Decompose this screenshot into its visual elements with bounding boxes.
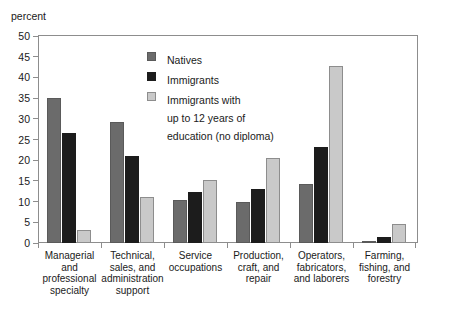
- bar-chart: percent 50454035302520151050 Manageriala…: [0, 0, 456, 310]
- x-axis-category-label: Technical,sales, andadministrationsuppor…: [101, 250, 164, 296]
- y-axis-tick-label: 25: [18, 134, 30, 146]
- category-label-line: Farming,: [353, 250, 416, 262]
- bar-immigrants: [188, 192, 202, 243]
- legend-swatch-lowedu: [147, 92, 156, 101]
- x-axis-category-label: Managerialandprofessionalspecialty: [38, 250, 101, 296]
- y-axis-tick-label: 5: [24, 216, 30, 228]
- x-axis-category-labels: ManagerialandprofessionalspecialtyTechni…: [38, 250, 418, 308]
- category-label-line: occupations: [164, 262, 227, 274]
- legend-swatch-natives: [147, 52, 156, 61]
- category-label-line: fabricators,: [290, 262, 353, 274]
- y-axis-tick: 40: [0, 71, 38, 83]
- y-axis-tick: 30: [0, 113, 38, 125]
- bar-natives: [47, 98, 61, 243]
- x-axis-category-label: Farming,fishing, andforestry: [353, 250, 416, 285]
- legend-item: Immigrants with up to 12 years of educat…: [147, 90, 312, 144]
- x-axis-tick-mark: [38, 243, 39, 248]
- x-axis-tick-mark: [164, 243, 165, 248]
- legend-swatch-immigrants: [147, 72, 156, 81]
- bar-immigrants: [125, 156, 139, 243]
- y-axis-tick: 35: [0, 92, 38, 104]
- category-label-line: fishing, and: [353, 262, 416, 274]
- y-axis-tick-label: 20: [18, 154, 30, 166]
- bar-natives: [236, 202, 250, 243]
- category-label-line: support: [101, 285, 164, 297]
- category-label-line: administration: [101, 273, 164, 285]
- category-label-line: repair: [227, 273, 290, 285]
- bar-lowedu: [392, 224, 406, 243]
- x-axis-category-label: Serviceoccupations: [164, 250, 227, 273]
- bar-lowedu: [140, 197, 154, 243]
- y-axis-tick-label: 40: [18, 71, 30, 83]
- bar-lowedu: [203, 180, 217, 243]
- y-axis-tick-label: 35: [18, 92, 30, 104]
- category-label-line: Managerial: [38, 250, 101, 262]
- category-label-line: forestry: [353, 273, 416, 285]
- category-label-line: specialty: [38, 285, 101, 297]
- bar-group: [39, 36, 102, 243]
- chart-legend: NativesImmigrantsImmigrants with up to 1…: [147, 50, 312, 146]
- x-axis-tick-mark: [415, 243, 416, 248]
- x-axis-category-label: Production,craft, andrepair: [227, 250, 290, 285]
- bar-immigrants: [62, 133, 76, 243]
- category-label-line: Service: [164, 250, 227, 262]
- category-label-line: professional: [38, 273, 101, 285]
- legend-label: Natives: [167, 54, 202, 66]
- category-label-line: Technical,: [101, 250, 164, 262]
- x-axis-tick-mark: [353, 243, 354, 248]
- category-label-line: Production,: [227, 250, 290, 262]
- x-axis-tick-mark: [290, 243, 291, 248]
- bar-immigrants: [251, 189, 265, 243]
- x-axis-tick-mark: [227, 243, 228, 248]
- legend-item: Immigrants: [147, 70, 312, 88]
- category-label-line: craft, and: [227, 262, 290, 274]
- y-axis-tick: 5: [0, 216, 38, 228]
- bar-group: [354, 36, 417, 243]
- y-axis-tick: 15: [0, 175, 38, 187]
- legend-label: Immigrants with up to 12 years of educat…: [167, 94, 274, 142]
- bar-lowedu: [77, 230, 91, 243]
- bar-lowedu: [266, 158, 280, 243]
- y-axis-tick: 50: [0, 30, 38, 42]
- legend-item: Natives: [147, 50, 312, 68]
- category-label-line: and: [38, 262, 101, 274]
- y-axis-tick-label: 45: [18, 51, 30, 63]
- bar-lowedu: [329, 66, 343, 243]
- y-axis-tick: 20: [0, 154, 38, 166]
- x-axis-tick-mark: [101, 243, 102, 248]
- y-axis-tick-label: 10: [18, 196, 30, 208]
- y-axis-tick: 10: [0, 196, 38, 208]
- y-axis-tick-label: 15: [18, 175, 30, 187]
- bar-natives: [173, 200, 187, 243]
- bar-natives: [110, 122, 124, 243]
- y-axis-tick-label: 0: [24, 237, 30, 249]
- category-label-line: and laborers: [290, 273, 353, 285]
- y-axis-unit-label: percent: [11, 10, 46, 22]
- category-label-line: sales, and: [101, 262, 164, 274]
- bar-immigrants: [314, 147, 328, 243]
- y-axis-tick: 25: [0, 134, 38, 146]
- y-axis: 50454035302520151050: [0, 29, 38, 249]
- legend-label: Immigrants: [167, 74, 219, 86]
- y-axis-tick: 0: [0, 237, 38, 249]
- bar-natives: [299, 184, 313, 243]
- y-axis-tick: 45: [0, 51, 38, 63]
- y-axis-tick-label: 30: [18, 113, 30, 125]
- x-axis-ticks: [38, 243, 418, 249]
- category-label-line: Operators,: [290, 250, 353, 262]
- y-axis-tick-label: 50: [18, 30, 30, 42]
- x-axis-category-label: Operators,fabricators,and laborers: [290, 250, 353, 285]
